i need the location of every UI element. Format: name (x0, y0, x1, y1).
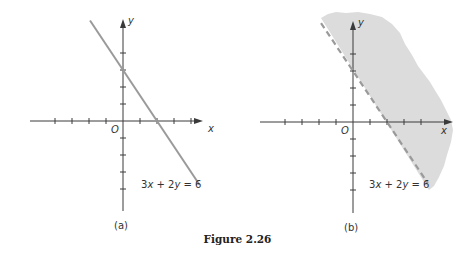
panel-label: (b) (344, 222, 358, 233)
panel-b-graph: y x O 3x + 2y = 6 (b) (260, 12, 453, 233)
x-axis-label: x (207, 123, 214, 134)
origin-label: O (111, 124, 119, 135)
figure-canvas: y x O 3x + 2y = 6 (a) y x O 3x + 2y = 6 … (0, 0, 475, 253)
panel-label: (a) (114, 220, 128, 231)
y-axis-label: y (127, 15, 135, 26)
x-axis-arrow-icon (194, 118, 203, 124)
panel-a-graph: y x O 3x + 2y = 6 (a) (30, 15, 214, 231)
origin-label: O (341, 125, 349, 136)
y-axis-arrow-icon (120, 19, 126, 28)
figure-caption: Figure 2.26 (0, 233, 475, 245)
equation-label: 3x + 2y = 6 (369, 179, 429, 190)
shaded-half-plane (321, 12, 453, 190)
y-axis-label: y (357, 17, 365, 28)
equation-label: 3x + 2y = 6 (141, 179, 201, 190)
boundary-line (90, 21, 199, 185)
x-axis-label: x (440, 125, 447, 136)
